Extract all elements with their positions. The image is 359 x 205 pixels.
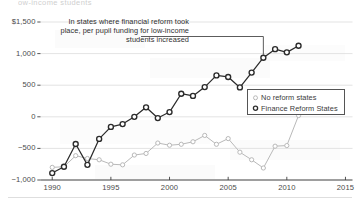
x-axis-tick-label: 2015: [325, 183, 359, 192]
data-point: [238, 150, 242, 154]
data-point: [132, 114, 137, 119]
data-point: [202, 85, 207, 90]
x-axis-tick-label: 1995: [91, 183, 131, 192]
data-point: [296, 43, 301, 48]
data-point: [273, 47, 278, 52]
y-axis-tick-label: 0: [31, 112, 35, 121]
data-point: [97, 158, 101, 162]
data-point: [61, 164, 66, 169]
data-point: [144, 151, 148, 155]
data-point: [132, 153, 136, 157]
data-point: [155, 116, 160, 121]
data-point: [226, 74, 231, 79]
y-axis-tick-label: −500: [18, 143, 36, 152]
annotation-line: In states where financial reform took: [52, 17, 189, 26]
x-axis-tick-label: 2010: [267, 183, 307, 192]
y-axis-tick-label: 500: [23, 80, 36, 89]
data-point: [144, 105, 149, 110]
data-point: [214, 142, 218, 146]
y-axis-tick-label: 1,000: [16, 49, 36, 58]
data-point: [261, 55, 266, 60]
data-point: [284, 50, 289, 55]
open-circle-icon: [251, 93, 260, 102]
data-point: [179, 142, 183, 146]
data-point: [237, 85, 242, 90]
x-axis-tick-label: 1990: [32, 183, 72, 192]
open-circle-icon: [251, 104, 260, 113]
data-point: [249, 70, 254, 75]
data-point: [179, 91, 184, 96]
data-point: [108, 124, 113, 129]
x-axis-tick-label: 2000: [150, 183, 190, 192]
data-point: [50, 171, 55, 176]
data-point: [203, 133, 207, 137]
data-point: [50, 165, 54, 169]
data-point: [226, 137, 230, 141]
data-point: [261, 166, 265, 170]
data-point: [120, 122, 125, 127]
annotation-line: place, per pupil funding for low-income: [52, 26, 189, 35]
data-point: [121, 163, 125, 167]
chart-annotation: In states where financial reform tookpla…: [52, 17, 189, 45]
y-axis-tick-label: $1,500: [12, 17, 36, 26]
data-point: [190, 93, 195, 98]
data-point: [73, 141, 78, 146]
chart-figure: ow-income students In states where finan…: [0, 0, 359, 205]
data-point: [191, 140, 195, 144]
data-point: [167, 143, 171, 147]
legend-item-finance-reform-states: Finance Reform States: [251, 103, 341, 114]
data-point: [250, 158, 254, 162]
legend-label: No reform states: [260, 93, 316, 102]
x-axis-tick-label: 2005: [208, 183, 248, 192]
data-point: [156, 141, 160, 145]
data-point: [285, 143, 289, 147]
data-point: [74, 154, 78, 158]
data-point: [85, 162, 90, 167]
data-point: [109, 162, 113, 166]
chart-legend: No reform states Finance Reform States: [247, 89, 345, 115]
data-point: [85, 156, 89, 160]
data-point: [214, 73, 219, 78]
data-point: [273, 144, 277, 148]
legend-item-no-reform-states: No reform states: [251, 92, 341, 103]
data-point: [167, 110, 172, 115]
data-point: [97, 136, 102, 141]
annotation-line: students increased: [52, 35, 189, 44]
legend-label: Finance Reform States: [260, 104, 338, 113]
